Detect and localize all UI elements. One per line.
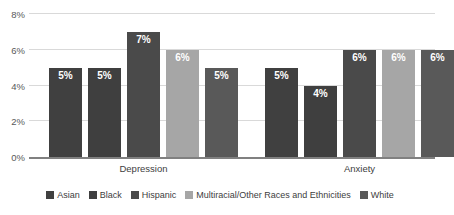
y-axis-tick-label: 4% [0,80,25,91]
bar[interactable]: 6% [382,50,415,157]
legend-label: Hispanic [142,190,177,200]
legend-item[interactable]: Multiracial/Other Races and Ethnicities [185,190,351,200]
y-axis-tick-label: 2% [0,116,25,127]
legend-item[interactable]: White [360,190,394,200]
y-axis-tick-label: 0% [0,152,25,163]
bar-value-label: 6% [343,52,376,64]
bar[interactable]: 5% [49,68,82,157]
legend-label: Black [100,190,122,200]
bar[interactable]: 6% [343,50,376,157]
legend-swatch-icon [46,191,54,199]
category-label: Anxiety [265,163,454,174]
plot-area: 5%5%7%6%5%5%4%6%6%6% [29,14,435,159]
legend-label: White [371,190,394,200]
bar[interactable]: 4% [304,86,337,158]
bar[interactable]: 5% [205,68,238,157]
bar-value-label: 7% [127,34,160,46]
legend-label: Multiracial/Other Races and Ethnicities [196,190,351,200]
bar-value-label: 5% [265,70,298,82]
legend-item[interactable]: Asian [46,190,80,200]
bar[interactable]: 5% [265,68,298,157]
bar[interactable]: 5% [88,68,121,157]
legend-swatch-icon [89,191,97,199]
bar-value-label: 5% [88,70,121,82]
bars-layer: 5%5%7%6%5%5%4%6%6%6% [29,14,435,159]
bar-value-label: 6% [421,52,454,64]
legend-swatch-icon [360,191,368,199]
bar[interactable]: 6% [166,50,199,157]
bar[interactable]: 7% [127,32,160,157]
y-axis-tick-label: 8% [0,9,25,20]
legend-label: Asian [57,190,80,200]
bar-value-label: 5% [205,70,238,82]
legend-item[interactable]: Black [89,190,122,200]
y-axis-tick-label: 6% [0,44,25,55]
legend: AsianBlackHispanicMultiracial/Other Race… [0,190,440,200]
bar[interactable]: 6% [421,50,454,157]
category-label: Depression [49,163,238,174]
legend-swatch-icon [131,191,139,199]
legend-item[interactable]: Hispanic [131,190,177,200]
bar-value-label: 5% [49,70,82,82]
legend-swatch-icon [185,191,193,199]
bar-value-label: 4% [304,88,337,100]
bar-value-label: 6% [382,52,415,64]
bar-value-label: 6% [166,52,199,64]
x-axis-baseline [29,157,435,159]
